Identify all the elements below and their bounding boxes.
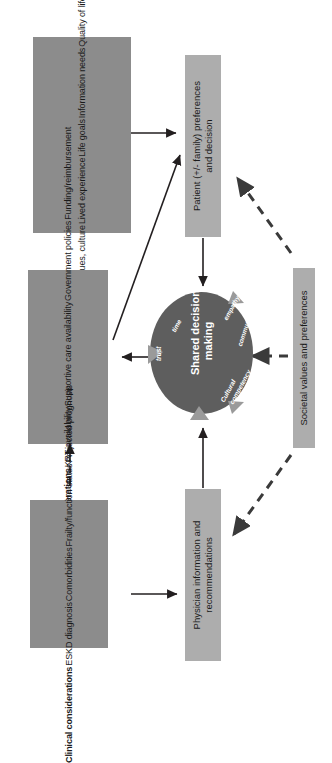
clinical-considerations-item-3: Projected prognosis — [64, 385, 74, 463]
box-societal-values-and-preferences: Societal values and preferences — [293, 268, 315, 448]
box-patient-considerations: Patient considerations Values, culture L… — [33, 37, 131, 233]
shared-decision-line2: making — [202, 307, 215, 375]
shared-decision-line1: Shared decision — [189, 307, 202, 375]
patient-considerations-item-4: Quality of life — [77, 0, 87, 47]
patient-considerations-item-2: Life goals — [77, 119, 87, 157]
patient-decision-line1: Patient (+/- family) preferences — [191, 81, 203, 211]
patient-considerations-item-3: Information needs — [77, 48, 87, 118]
physician-recommendations-text: Physician information and recommendation… — [191, 521, 215, 630]
societal-values-text: Societal values and preferences — [298, 290, 310, 425]
clinical-considerations-text: Clinical considerations ESKD diagnosis C… — [64, 385, 74, 763]
arrow-societal-to-physician-recommendations — [234, 455, 291, 534]
patient-decision-text: Patient (+/- family) preferences and dec… — [191, 81, 215, 211]
physician-recommendations-line2: recommendations — [203, 521, 215, 630]
clinical-considerations-item-0: ESKD diagnosis — [64, 602, 74, 666]
arrow-societal-to-patient-decision — [238, 179, 291, 253]
clinical-considerations-item-2: Frailty/function status — [64, 464, 74, 547]
box-clinical-considerations: Clinical considerations ESKD diagnosis C… — [30, 500, 108, 648]
clinical-considerations-title: Clinical considerations — [64, 667, 74, 763]
patient-considerations-item-1: Lived experience — [77, 158, 87, 224]
system-considerations-item-2: Government policies — [63, 221, 73, 301]
societal-values-label: Societal values and preferences — [298, 290, 310, 425]
circle-attribute-trust: trust — [155, 347, 162, 361]
box-physician-information-and-recommendations: Physician information and recommendation… — [185, 489, 221, 661]
clinical-considerations-item-1: Comorbidities — [64, 547, 74, 601]
box-patient-preferences-and-decision: Patient (+/- family) preferences and dec… — [185, 55, 221, 237]
physician-recommendations-line1: Physician information and — [191, 521, 203, 630]
system-considerations-item-3: Funding/reimbursement — [63, 127, 73, 220]
shared-decision-core-label: Shared decision making — [189, 307, 215, 375]
patient-decision-line2: and decision — [203, 81, 215, 211]
